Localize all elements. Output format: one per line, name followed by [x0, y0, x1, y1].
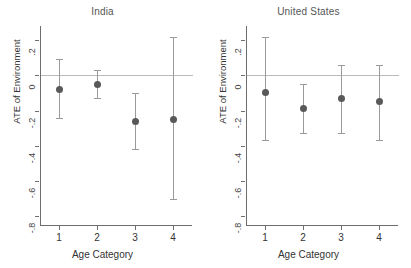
x-tick-mark — [303, 226, 304, 230]
data-point-marker — [262, 89, 269, 96]
plot-area-united-states: .20-.2-.4-.6-.81234 — [246, 26, 398, 225]
error-bar-cap-lower — [300, 133, 307, 134]
y-tick-label: -.8 — [27, 215, 37, 241]
error-bar-cap-lower — [170, 199, 177, 200]
y-tick-label: -.2 — [233, 110, 243, 136]
y-tick-label: 0 — [233, 74, 243, 100]
panel-united-states: United States ATE of Environment Age Cat… — [206, 0, 411, 268]
error-bar-cap-upper — [56, 59, 63, 60]
y-tick-label: .2 — [233, 39, 243, 65]
figure-container: India ATE of Environment Age Category .2… — [0, 0, 411, 268]
y-tick-label: -.4 — [27, 145, 37, 171]
data-point-marker — [94, 81, 101, 88]
x-tick-label: 3 — [331, 232, 351, 243]
x-tick-label: 4 — [163, 232, 183, 243]
y-tick-label: -.8 — [233, 215, 243, 241]
error-bar-cap-upper — [300, 84, 307, 85]
x-tick-mark — [59, 226, 60, 230]
x-tick-label: 1 — [255, 232, 275, 243]
y-tick-label: .2 — [27, 39, 37, 65]
x-tick-label: 2 — [293, 232, 313, 243]
y-tick-label: -.6 — [233, 180, 243, 206]
error-bar-cap-upper — [338, 65, 345, 66]
y-tick-label: -.6 — [27, 180, 37, 206]
error-bar-cap-upper — [376, 65, 383, 66]
zero-reference-line — [247, 75, 399, 76]
data-point-marker — [132, 118, 139, 125]
panel-title-india: India — [0, 6, 205, 17]
y-axis-label-united-states: ATE of Environment — [217, 22, 228, 142]
x-tick-mark — [379, 226, 380, 230]
zero-reference-line — [41, 75, 193, 76]
data-point-marker — [338, 95, 345, 102]
x-axis-label-india: Age Category — [0, 249, 205, 260]
error-bar-cap-lower — [376, 140, 383, 141]
y-tick-label: 0 — [27, 74, 37, 100]
error-bar-cap-upper — [262, 37, 269, 38]
x-axis-line — [40, 225, 192, 226]
x-tick-mark — [341, 226, 342, 230]
y-axis-label-india: ATE of Environment — [11, 22, 22, 142]
data-point-marker — [170, 116, 177, 123]
error-bar-cap-lower — [132, 149, 139, 150]
plot-area-india: .20-.2-.4-.6-.81234 — [40, 26, 192, 225]
error-bar-cap-lower — [262, 140, 269, 141]
x-tick-mark — [135, 226, 136, 230]
x-tick-label: 3 — [125, 232, 145, 243]
error-bar-cap-lower — [338, 133, 345, 134]
x-tick-mark — [97, 226, 98, 230]
error-bar-cap-lower — [94, 98, 101, 99]
data-point-marker — [376, 98, 383, 105]
data-point-marker — [56, 86, 63, 93]
error-bar-cap-upper — [132, 93, 139, 94]
y-axis-line — [246, 26, 247, 225]
data-point-marker — [300, 105, 307, 112]
panel-india: India ATE of Environment Age Category .2… — [0, 0, 205, 268]
x-tick-mark — [265, 226, 266, 230]
y-tick-label: -.2 — [27, 110, 37, 136]
x-axis-label-united-states: Age Category — [206, 249, 411, 260]
panel-title-united-states: United States — [206, 6, 411, 17]
x-tick-label: 4 — [369, 232, 389, 243]
x-axis-line — [246, 225, 398, 226]
y-axis-line — [40, 26, 41, 225]
x-tick-mark — [173, 226, 174, 230]
y-tick-label: -.4 — [233, 145, 243, 171]
error-bar-cap-upper — [170, 37, 177, 38]
error-bar-cap-upper — [94, 70, 101, 71]
x-tick-label: 2 — [87, 232, 107, 243]
error-bar-cap-lower — [56, 118, 63, 119]
x-tick-label: 1 — [49, 232, 69, 243]
